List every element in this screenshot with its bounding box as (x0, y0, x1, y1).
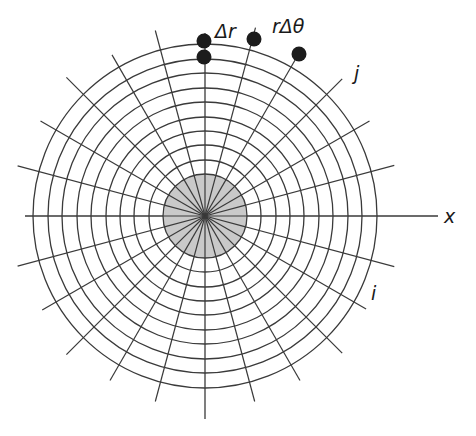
grid-node-delta-r (197, 34, 212, 49)
delta-r-label: Δr (213, 20, 237, 42)
j-index-label: j (351, 62, 360, 84)
core-radial-lines (163, 174, 247, 258)
polar-grid-diagram: Δr rΔθ j i x (0, 0, 476, 436)
x-axis-label: x (443, 205, 456, 227)
grid-node-r-delta-theta (247, 32, 262, 47)
grid-node-delta-r (197, 50, 212, 65)
r-delta-theta-label: rΔθ (272, 15, 305, 37)
i-index-label: i (371, 282, 377, 304)
grid-node-r-delta-theta (292, 47, 307, 62)
